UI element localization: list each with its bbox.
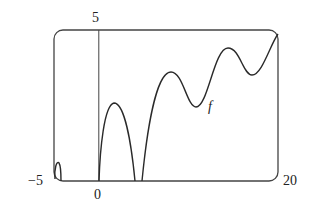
x-tick-minus5: −5	[28, 174, 43, 188]
curve-label-f: f	[208, 100, 212, 114]
chart-canvas	[0, 0, 312, 211]
x-tick-0: 0	[94, 188, 101, 202]
plot-frame	[54, 30, 278, 181]
x-tick-20: 20	[283, 174, 297, 188]
y-tick-5: 5	[92, 11, 99, 25]
curve-f	[55, 34, 278, 181]
